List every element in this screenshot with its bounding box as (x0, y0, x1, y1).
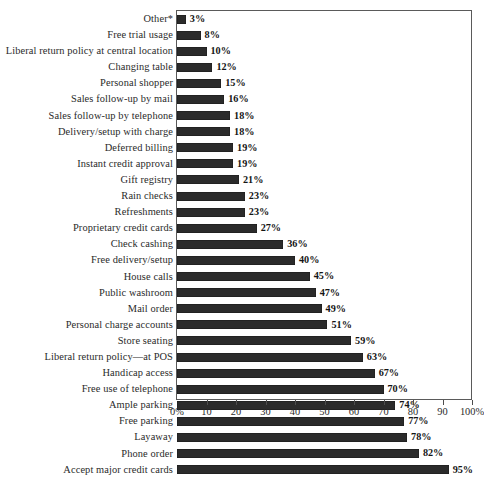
bar-wrapper: 45% (177, 269, 473, 285)
category-label: Free parking (119, 413, 176, 429)
bar-value-label: 8% (205, 30, 220, 40)
bar (177, 47, 207, 56)
bar-row: Layaway78% (0, 429, 479, 445)
bar-row: Rain checks23% (0, 188, 479, 204)
category-label: Personal shopper (100, 75, 176, 91)
bar-wrapper: 78% (177, 429, 473, 445)
bar (177, 111, 230, 120)
bar-value-label: 63% (367, 352, 387, 362)
bar-value-label: 95% (453, 465, 473, 475)
bar-row: Accept major credit cards95% (0, 462, 479, 478)
category-label: Rain checks (121, 188, 176, 204)
bar-row: House calls45% (0, 269, 479, 285)
bar-row: Mail order49% (0, 301, 479, 317)
category-label: Gift registry (121, 172, 176, 188)
x-axis-tick-label: 80 (408, 406, 418, 417)
bar-row: Instant credit approval19% (0, 156, 479, 172)
category-label: Liberal return policy—at POS (45, 349, 176, 365)
bar-wrapper: 23% (177, 204, 473, 220)
category-label: Public washroom (99, 285, 176, 301)
category-label: Sales follow-up by telephone (49, 108, 176, 124)
bar (177, 353, 363, 362)
x-axis-tick-label: 90 (437, 406, 447, 417)
bar (177, 449, 419, 458)
x-axis: 0%102030405060708090100% (176, 400, 473, 424)
bar-value-label: 18% (234, 127, 254, 137)
bar (177, 240, 283, 249)
category-label: Delivery/setup with charge (58, 124, 176, 140)
bar-row: Changing table12% (0, 59, 479, 75)
bar-row: Liberal return policy at central locatio… (0, 43, 479, 59)
category-label: Deferred billing (105, 140, 176, 156)
category-label: Free delivery/setup (91, 252, 176, 268)
category-label: Instant credit approval (77, 156, 176, 172)
category-label: Free use of telephone (82, 381, 176, 397)
bar-wrapper: 12% (177, 59, 473, 75)
bar-row: Personal shopper15% (0, 75, 479, 91)
category-label: Handicap access (102, 365, 176, 381)
bar-wrapper: 51% (177, 317, 473, 333)
bar-row: Delivery/setup with charge18% (0, 124, 479, 140)
bar-row: Free delivery/setup40% (0, 252, 479, 268)
bar-value-label: 36% (287, 239, 307, 249)
category-label: Free trial usage (107, 27, 176, 43)
bar-wrapper: 59% (177, 333, 473, 349)
bar-wrapper: 18% (177, 108, 473, 124)
bar-wrapper: 3% (177, 11, 473, 27)
category-label: Store seating (118, 333, 176, 349)
category-label: Personal charge accounts (66, 317, 176, 333)
bar (177, 63, 212, 72)
bar-wrapper: 27% (177, 220, 473, 236)
bar-value-label: 78% (411, 432, 431, 442)
bar-value-label: 18% (234, 111, 254, 121)
bar-wrapper: 47% (177, 285, 473, 301)
bar-value-label: 12% (216, 62, 236, 72)
x-axis-tick (413, 400, 414, 405)
bar-value-label: 67% (379, 368, 399, 378)
bar-row: Deferred billing19% (0, 140, 479, 156)
bar-wrapper: 67% (177, 365, 473, 381)
x-axis-tick-label: 20 (231, 406, 241, 417)
bar (177, 15, 186, 24)
bar (177, 320, 327, 329)
bar-wrapper: 63% (177, 349, 473, 365)
bar-rows: Other*3%Free trial usage8%Liberal return… (0, 11, 479, 399)
bar (177, 175, 239, 184)
bar-value-label: 82% (423, 448, 443, 458)
bar (177, 369, 375, 378)
category-label: Phone order (121, 446, 176, 462)
x-axis-tick-label: 10 (201, 406, 211, 417)
x-axis-tick (295, 400, 296, 405)
category-label: Proprietary credit cards (73, 220, 176, 236)
x-axis-tick-label: 60 (349, 406, 359, 417)
bar-value-label: 51% (331, 320, 351, 330)
bar (177, 433, 407, 442)
bar-row: Personal charge accounts51% (0, 317, 479, 333)
bar-row: Proprietary credit cards27% (0, 220, 479, 236)
bar-row: Refreshments23% (0, 204, 479, 220)
bar-wrapper: 40% (177, 252, 473, 268)
bar-value-label: 45% (314, 271, 334, 281)
x-axis-tick (384, 400, 385, 405)
bar-value-label: 49% (326, 304, 346, 314)
bar (177, 465, 449, 474)
x-axis-tick-label: 50 (319, 406, 329, 417)
bar (177, 127, 230, 136)
x-axis-tick (472, 400, 473, 405)
bar-row: Other*3% (0, 11, 479, 27)
bar (177, 336, 351, 345)
bar-wrapper: 82% (177, 446, 473, 462)
bar (177, 208, 245, 217)
category-label: Mail order (128, 301, 176, 317)
category-label: House calls (124, 269, 176, 285)
bar-wrapper: 36% (177, 236, 473, 252)
bar (177, 192, 245, 201)
bar-value-label: 16% (228, 94, 248, 104)
bar-value-label: 47% (320, 288, 340, 298)
bar-row: Check cashing36% (0, 236, 479, 252)
category-label: Liberal return policy at central locatio… (6, 43, 176, 59)
bar-row: Store seating59% (0, 333, 479, 349)
bar-value-label: 23% (249, 191, 269, 201)
bar-value-label: 15% (225, 78, 245, 88)
bar-row: Free trial usage8% (0, 27, 479, 43)
